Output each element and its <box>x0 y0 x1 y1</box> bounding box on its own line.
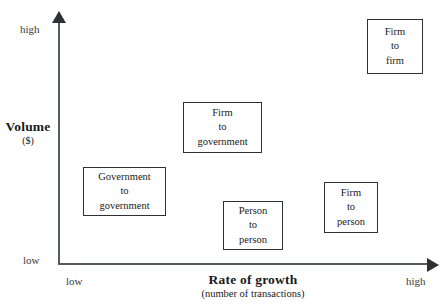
segment-line-2: to <box>218 120 226 134</box>
y-axis-line <box>58 20 60 265</box>
y-axis-tick-low: low <box>23 255 40 266</box>
x-axis-title-main: Rate of growth <box>138 272 368 288</box>
y-axis-title-sub: ($) <box>0 135 56 147</box>
segment-line-1: Person <box>239 204 268 218</box>
segment-box-firm-to-person: Firm to person <box>324 182 378 233</box>
segment-line-3: person <box>239 233 267 247</box>
segment-box-firm-to-government: Firm to government <box>183 102 262 153</box>
segment-line-1: Firm <box>341 186 361 200</box>
diagram-canvas: high low low high Volume ($) Rate of gro… <box>0 0 446 305</box>
segment-line-2: to <box>120 184 128 198</box>
segment-line-3: government <box>197 135 247 149</box>
segment-line-1: Firm <box>385 25 405 39</box>
segment-line-2: to <box>249 218 257 232</box>
x-axis-title-sub: (number of transactions) <box>138 288 368 301</box>
x-axis-arrow-icon <box>427 258 439 272</box>
y-axis-title: Volume ($) <box>0 119 56 146</box>
y-axis-arrow-icon <box>52 11 66 23</box>
segment-line-1: Government <box>98 170 151 184</box>
segment-line-3: person <box>337 215 365 229</box>
segment-line-2: to <box>391 39 399 53</box>
x-axis-line <box>58 263 431 265</box>
segment-box-firm-to-firm: Firm to firm <box>367 19 423 74</box>
x-axis-tick-high: high <box>406 276 426 287</box>
segment-line-3: firm <box>386 54 404 68</box>
segment-box-person-to-person: Person to person <box>223 201 283 250</box>
y-axis-tick-high: high <box>20 24 40 35</box>
segment-line-2: to <box>347 200 355 214</box>
segment-line-3: government <box>99 199 149 213</box>
x-axis-tick-low: low <box>66 276 83 287</box>
y-axis-title-main: Volume <box>0 119 56 135</box>
x-axis-title: Rate of growth (number of transactions) <box>138 272 368 301</box>
segment-line-1: Firm <box>212 106 232 120</box>
segment-box-government-to-government: Government to government <box>83 167 166 216</box>
